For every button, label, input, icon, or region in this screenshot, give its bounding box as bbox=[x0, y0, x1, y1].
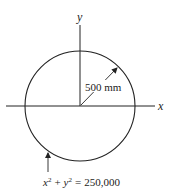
eq-plus: + bbox=[54, 176, 60, 188]
circle-equation: x2+y2=250,000 bbox=[42, 176, 120, 188]
eq-value: 250,000 bbox=[84, 176, 120, 188]
eq-equals: = bbox=[75, 176, 81, 188]
eq-x-exp: 2 bbox=[48, 176, 52, 184]
circle-diagram: x y 500 mm x2+y2=250,000 bbox=[0, 0, 174, 190]
y-axis-label: y bbox=[76, 10, 83, 24]
eq-y-exp: 2 bbox=[69, 176, 73, 184]
radius-label: 500 mm bbox=[85, 81, 122, 93]
x-axis-label: x bbox=[157, 99, 164, 113]
